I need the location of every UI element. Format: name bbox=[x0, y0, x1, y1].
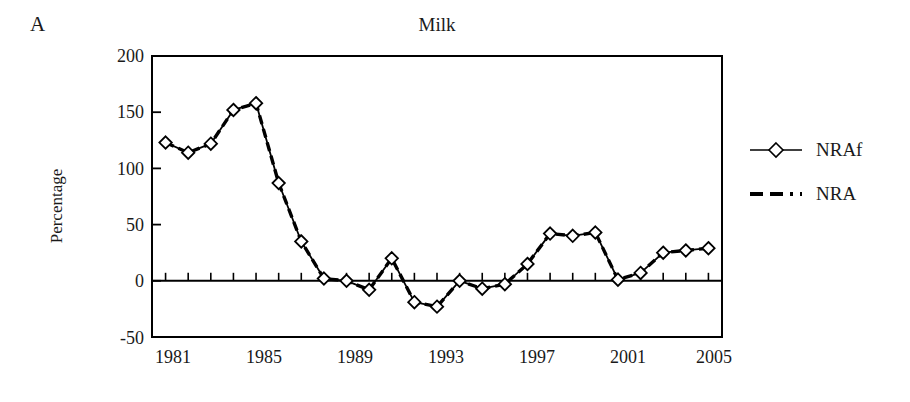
chart-legend: NRAf NRA bbox=[748, 128, 908, 216]
legend-label: NRAf bbox=[804, 139, 862, 161]
axis-ticks bbox=[152, 56, 708, 337]
legend-label: NRA bbox=[804, 183, 856, 205]
diamond-marker-icon bbox=[748, 140, 804, 160]
chart-figure: A Milk Percentage 200 150 100 50 0 -50 1… bbox=[0, 0, 910, 402]
dashed-line-icon bbox=[748, 184, 804, 204]
axes-frame bbox=[152, 56, 722, 337]
legend-item-nra[interactable]: NRA bbox=[748, 172, 908, 216]
legend-item-nraf[interactable]: NRAf bbox=[748, 128, 908, 172]
